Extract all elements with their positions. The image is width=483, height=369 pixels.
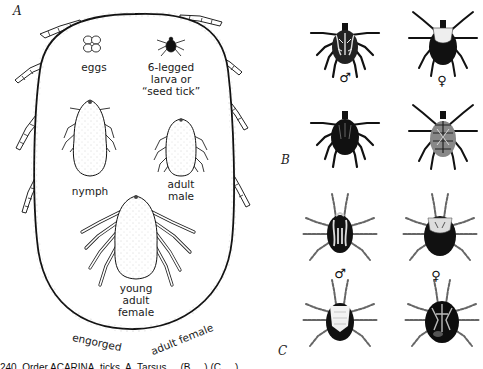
panel-bc-illustrations bbox=[0, 0, 483, 369]
figure-caption: 240. Order ACARINA, ticks. A, Tarsus ...… bbox=[0, 361, 483, 369]
tick-b-female-ventral bbox=[409, 105, 477, 169]
figure: A B C bbox=[0, 0, 483, 369]
tick-c-female-dorsal bbox=[402, 194, 478, 260]
tick-b-male-ventral bbox=[311, 111, 379, 167]
tick-b-male-dorsal bbox=[311, 23, 379, 77]
female-symbol-c: ♀ bbox=[431, 268, 441, 283]
male-symbol-c: ♂ bbox=[334, 266, 346, 281]
tick-c-male-dorsal bbox=[302, 194, 378, 260]
tick-b-female-dorsal bbox=[409, 12, 477, 76]
tick-c-male-ventral bbox=[302, 280, 378, 346]
male-symbol-b: ♂ bbox=[339, 70, 351, 85]
tick-c-female-ventral bbox=[404, 280, 480, 346]
female-symbol-b: ♀ bbox=[437, 73, 447, 88]
